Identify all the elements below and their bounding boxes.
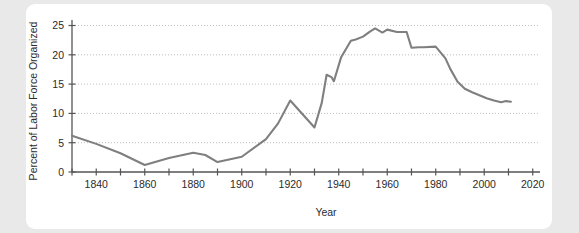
line-chart: 1840186018801900192019401960198020002020…: [26, 4, 552, 229]
x-tick-label: 1900: [230, 178, 254, 190]
x-axis-title: Year: [315, 206, 337, 218]
page-root: 1840186018801900192019401960198020002020…: [0, 0, 579, 233]
x-tick-label: 1980: [424, 178, 448, 190]
axis-lines: [72, 20, 540, 172]
chart-card: 1840186018801900192019401960198020002020…: [26, 4, 552, 229]
y-tick-label: 15: [52, 78, 64, 90]
x-axis-tick-labels: 1840186018801900192019401960198020002020: [85, 178, 545, 190]
y-tick-label: 5: [58, 137, 64, 149]
y-tick-label: 0: [58, 166, 64, 178]
x-tick-label: 1960: [376, 178, 400, 190]
y-tick-label: 10: [52, 107, 64, 119]
y-axis-tick-labels: 0510152025: [52, 19, 64, 177]
x-tick-label: 1880: [182, 178, 206, 190]
x-tick-label: 2000: [473, 178, 497, 190]
data-series-line: [72, 28, 511, 165]
x-tick-label: 1860: [133, 178, 157, 190]
x-tick-label: 1920: [279, 178, 303, 190]
grid-lines: [72, 26, 540, 143]
y-axis-title: Percent of Labor Force Organized: [27, 21, 39, 180]
x-tick-label: 1840: [85, 178, 109, 190]
y-tick-label: 20: [52, 49, 64, 61]
y-tick-label: 25: [52, 19, 64, 31]
x-tick-label: 1940: [327, 178, 351, 190]
x-tick-label: 2020: [521, 178, 545, 190]
